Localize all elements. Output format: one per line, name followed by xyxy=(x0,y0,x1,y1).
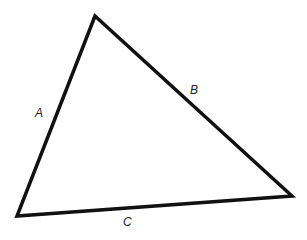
triangle-shape xyxy=(17,16,292,216)
side-label-c: C xyxy=(123,215,132,229)
side-label-a: A xyxy=(34,106,43,120)
side-label-b: B xyxy=(190,83,198,97)
triangle-diagram: A B C xyxy=(0,0,307,240)
